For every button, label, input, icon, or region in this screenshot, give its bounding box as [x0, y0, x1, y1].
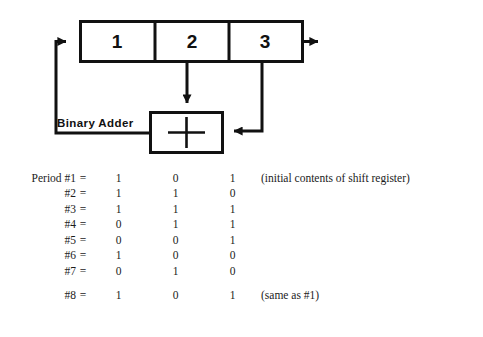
- register-cell-2-label: 2: [187, 31, 198, 52]
- equals-sign: =: [76, 232, 90, 248]
- bit-cell: 0: [204, 186, 261, 202]
- period-label: #3: [24, 201, 76, 217]
- register-cell-3-label: 3: [260, 31, 271, 52]
- diagram-page: 1 2 3 Binary Adder Period #1=101(: [0, 0, 483, 337]
- bit-cell: 1: [204, 288, 261, 304]
- bit-cell: 1: [90, 186, 147, 202]
- period-label: #8: [24, 288, 76, 304]
- row-note: [261, 248, 410, 264]
- equals-sign: =: [76, 263, 90, 279]
- bit-cell: 0: [147, 170, 204, 186]
- bit-cell: 1: [204, 232, 261, 248]
- table-spacer-cell: [24, 279, 410, 288]
- table-row: #3=111: [24, 201, 410, 217]
- table-spacer-row: [24, 279, 410, 288]
- table-row: #8=101(same as #1): [24, 288, 410, 304]
- table-row: #6=100: [24, 248, 410, 264]
- row-note: (same as #1): [261, 288, 410, 304]
- table-row: #2=110: [24, 186, 410, 202]
- bit-cell: 1: [147, 263, 204, 279]
- tap-cell-3-to-adder: [234, 62, 262, 132]
- equals-sign: =: [76, 248, 90, 264]
- bit-cell: 0: [147, 248, 204, 264]
- table-row: #4=011: [24, 217, 410, 233]
- period-label: #6: [24, 248, 76, 264]
- period-label: #4: [24, 217, 76, 233]
- table-row: #7=010: [24, 263, 410, 279]
- bit-cell: 1: [90, 288, 147, 304]
- bit-cell: 1: [204, 217, 261, 233]
- bit-cell: 0: [90, 217, 147, 233]
- row-note: [261, 232, 410, 248]
- equals-sign: =: [76, 170, 90, 186]
- period-label: Period #1: [24, 170, 76, 186]
- row-note: (initial contents of shift register): [261, 170, 410, 186]
- bit-cell: 1: [204, 170, 261, 186]
- bit-cell: 0: [90, 263, 147, 279]
- bit-cell: 1: [147, 217, 204, 233]
- bit-cell: 1: [90, 170, 147, 186]
- bit-cell: 1: [147, 186, 204, 202]
- period-label: #5: [24, 232, 76, 248]
- period-label: #2: [24, 186, 76, 202]
- table-row: Period #1=101(initial contents of shift …: [24, 170, 410, 186]
- register-cell-1-label: 1: [112, 31, 123, 52]
- sequence-table-body: Period #1=101(initial contents of shift …: [24, 170, 410, 303]
- sequence-table: Period #1=101(initial contents of shift …: [24, 170, 410, 303]
- bit-cell: 0: [147, 232, 204, 248]
- row-note: [261, 217, 410, 233]
- period-label: #7: [24, 263, 76, 279]
- bit-cell: 0: [204, 248, 261, 264]
- bit-cell: 1: [204, 201, 261, 217]
- bit-cell: 0: [204, 263, 261, 279]
- bit-cell: 0: [147, 288, 204, 304]
- binary-adder-label: Binary Adder: [57, 117, 134, 129]
- row-note: [261, 263, 410, 279]
- row-note: [261, 186, 410, 202]
- table-row: #5=001: [24, 232, 410, 248]
- row-note: [261, 201, 410, 217]
- sequence-table-area: Period #1=101(initial contents of shift …: [0, 165, 483, 337]
- equals-sign: =: [76, 217, 90, 233]
- shift-register-diagram: 1 2 3 Binary Adder: [0, 0, 483, 165]
- equals-sign: =: [76, 201, 90, 217]
- equals-sign: =: [76, 186, 90, 202]
- bit-cell: 0: [90, 232, 147, 248]
- bit-cell: 1: [90, 248, 147, 264]
- equals-sign: =: [76, 288, 90, 304]
- bit-cell: 1: [147, 201, 204, 217]
- bit-cell: 1: [90, 201, 147, 217]
